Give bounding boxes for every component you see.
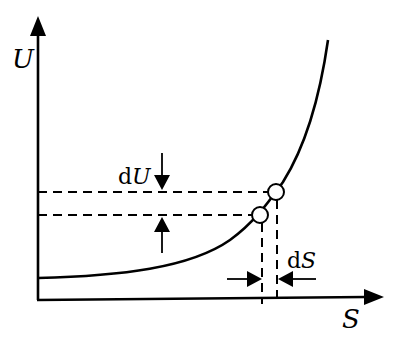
- x-axis-label: S: [342, 304, 360, 334]
- u-s-curve: [38, 40, 328, 278]
- right-arrow-icon: [247, 271, 262, 287]
- left-arrow-icon: [278, 271, 293, 287]
- up-arrow-icon: [154, 217, 170, 232]
- dashed-guides: [38, 192, 277, 304]
- u-s-diagram: U S dU dS: [0, 0, 404, 343]
- du-label: dU: [118, 164, 152, 189]
- upper-point-marker: [268, 184, 284, 200]
- lower-point-marker: [252, 207, 268, 223]
- y-axis-arrow-icon: [30, 16, 46, 36]
- ds-label: dS: [287, 248, 316, 273]
- down-arrow-icon: [154, 175, 170, 190]
- ds-arrows: [227, 271, 316, 287]
- y-axis-label: U: [12, 44, 35, 74]
- x-axis: [37, 289, 384, 305]
- du-arrows: [154, 153, 170, 253]
- x-axis-arrow-icon: [364, 289, 384, 305]
